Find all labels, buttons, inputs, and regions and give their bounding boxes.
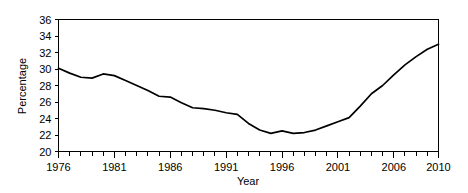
- x-tick-label: 1991: [214, 161, 238, 173]
- y-tick-label: 30: [39, 63, 51, 75]
- y-tick-label: 36: [39, 14, 51, 26]
- x-axis-tick-labels: 19761981198619911996200120062010: [46, 161, 450, 173]
- x-tick-label: 2006: [382, 161, 406, 173]
- x-axis-ticks: [59, 152, 439, 158]
- y-tick-label: 24: [39, 113, 51, 125]
- y-tick-label: 28: [39, 80, 51, 92]
- y-tick-label: 32: [39, 47, 51, 59]
- x-tick-label: 1986: [158, 161, 182, 173]
- x-tick-label: 2001: [326, 161, 350, 173]
- x-axis-title: Year: [237, 175, 260, 187]
- chart-canvas: 202224262830323436 197619811986199119962…: [0, 0, 468, 193]
- y-axis-tick-labels: 202224262830323436: [39, 14, 51, 158]
- y-axis-title: Percentage: [16, 58, 28, 114]
- y-tick-label: 22: [39, 129, 51, 141]
- y-tick-label: 26: [39, 96, 51, 108]
- y-tick-label: 34: [39, 30, 51, 42]
- line-chart: 202224262830323436 197619811986199119962…: [0, 0, 468, 193]
- x-tick-label: 2010: [426, 161, 450, 173]
- series-path-percentage: [59, 44, 439, 133]
- x-tick-label: 1976: [46, 161, 70, 173]
- x-tick-label: 1996: [270, 161, 294, 173]
- x-tick-label: 1981: [102, 161, 126, 173]
- y-tick-label: 20: [39, 146, 51, 158]
- y-axis-ticks: [55, 20, 59, 152]
- data-series-percentage: [59, 44, 439, 133]
